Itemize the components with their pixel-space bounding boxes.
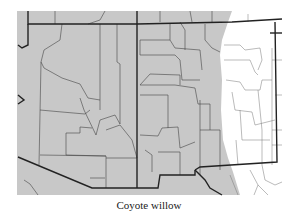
county-lines-east: [224, 14, 282, 195]
range-shading: [17, 11, 240, 195]
range-map: [0, 0, 298, 200]
map-svg: [0, 0, 298, 200]
map-caption: Coyote willow: [0, 199, 298, 211]
